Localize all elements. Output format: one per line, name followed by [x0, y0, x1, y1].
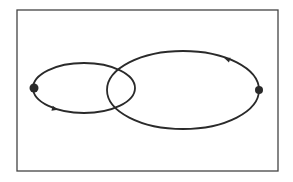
focus-point-right: [255, 86, 263, 94]
focus-point-left: [30, 84, 39, 93]
large-elliptical-orbit: [107, 51, 259, 129]
orbit-diagram: [0, 0, 293, 182]
small-elliptical-orbit: [33, 63, 135, 113]
diagram-frame: [17, 10, 278, 171]
